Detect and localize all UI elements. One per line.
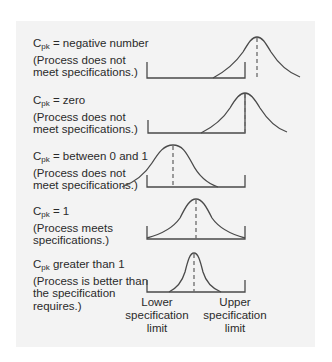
normal-curve-row4 bbox=[147, 199, 245, 238]
upper-spec-limit-label: Upper specification limit bbox=[195, 296, 275, 335]
spec-limits-row5 bbox=[147, 280, 245, 292]
spec-limits-row3 bbox=[147, 175, 245, 187]
normal-curve-row3 bbox=[122, 145, 218, 187]
spec-limits-row1 bbox=[147, 62, 245, 78]
normal-curve-row2 bbox=[201, 93, 287, 133]
lower-spec-limit-label: Lower specification limit bbox=[117, 296, 197, 335]
normal-curve-row1 bbox=[213, 37, 300, 78]
normal-curve-row5 bbox=[169, 253, 221, 292]
spec-limits-row2 bbox=[148, 93, 245, 133]
